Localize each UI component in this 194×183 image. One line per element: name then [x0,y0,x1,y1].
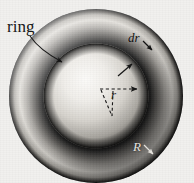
inner-disc-rim-shadow [44,44,149,149]
label-radius-R: R [133,140,141,153]
inner-disc [44,44,149,149]
label-dr: dr [128,31,140,44]
label-ring: ring [7,18,34,35]
ring-diagram-figure: ring dr r R [0,0,194,183]
label-r: r [111,88,116,101]
